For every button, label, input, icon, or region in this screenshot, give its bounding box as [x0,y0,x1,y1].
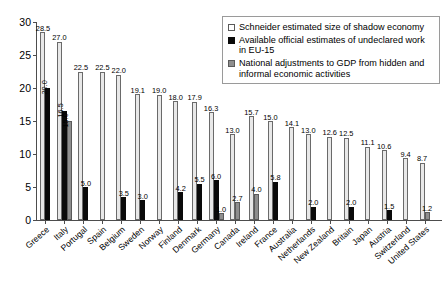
bar-official-eu15: 5.5 [197,184,202,220]
legend-label-schneider: Schneider estimated size of shadow econo… [239,22,424,32]
bar-value-label: 3.5 [119,190,129,197]
bar-value-label: 8.7 [417,155,427,162]
bar-value-label: 28.5 [36,25,50,32]
x-axis-labels: GreeceItalyPortugalSpainBelgiumSwedenNor… [36,222,434,282]
bar-group: 28.520.0 [36,22,55,220]
bar-group: 22.5 [93,22,112,220]
bar-value-label: 6.0 [211,173,221,180]
bar-schneider: 9.4 [403,158,408,220]
legend-label-official-eu15: Available official estimates of undeclar… [239,35,434,56]
bar-value-label: 4.0 [251,186,261,193]
bar-official-eu15: 4.2 [178,192,183,220]
bar-group: 18.04.2 [169,22,188,220]
x-axis-line [36,220,442,221]
bar-official-eu15: 3.5 [121,197,126,220]
bar-value-label: 22.5 [95,64,109,71]
bar-value-label: 13.0 [301,127,315,134]
x-label-slot: Portugal [74,222,93,282]
bar-group: 19.13.0 [131,22,150,220]
bar-value-label: 2.0 [308,199,318,206]
bar-group: 19.0 [150,22,169,220]
legend-item-schneider: Schneider estimated size of shadow econo… [228,22,434,32]
bar-official-eu15: 5.0 [83,187,88,220]
bar-value-label: 14.1 [285,120,299,127]
bar-value-label: 15.0 [263,114,277,121]
bar-official-eu15: 2.0 [311,207,316,220]
bar-value-label: 22.0 [112,67,126,74]
legend-item-national-gdp: National adjustments to GDP from hidden … [228,58,434,79]
shadow-economy-bar-chart: 051015202530 28.520.027.016.515.022.55.0… [0,0,448,289]
x-tick-label: Greece [25,225,52,250]
bar-value-label: 1.2 [422,205,432,212]
bar-official-eu15: 20.0 [45,88,50,220]
x-label-slot: Spain [93,222,112,282]
bar-schneider: 11.1 [365,147,370,220]
x-label-slot: United States [415,222,434,282]
bar-value-label: 17.9 [187,94,201,101]
x-label-slot: Germany [207,222,226,282]
legend-swatch-official-eu15-icon [228,37,235,44]
bar-schneider: 19.0 [157,95,162,220]
bar-value-label: 16.3 [204,105,218,112]
bar-official-eu15: 1.5 [387,210,392,220]
legend-item-official-eu15: Available official estimates of undeclar… [228,35,434,56]
bar-value-label: 5.0 [81,180,91,187]
bar-group: 17.95.5 [188,22,207,220]
x-label-slot: Canada [226,222,245,282]
bar-value-label: 5.5 [194,176,204,183]
bar-value-label: 19.0 [152,87,166,94]
bar-value-label: 27.0 [52,34,66,41]
x-label-slot: Britain [339,222,358,282]
bar-value-label: 18.0 [168,94,182,101]
x-label-slot: Belgium [112,222,131,282]
bar-official-eu15: 3.0 [140,200,145,220]
x-label-slot: Ireland [244,222,263,282]
bar-schneider: 22.5 [100,72,105,221]
bar-national-gdp: 1.0 [219,213,224,220]
legend-label-national-gdp: National adjustments to GDP from hidden … [239,58,434,79]
bar-national-gdp: 1.2 [425,212,430,220]
x-label-slot: New Zealand [320,222,339,282]
bar-group: 22.03.5 [112,22,131,220]
bar-value-label: 15.0 [62,113,69,127]
figure-caption [26,279,426,289]
bar-official-eu15: 2.0 [349,207,354,220]
y-tick-mark [33,220,37,221]
bar-value-label: 12.6 [323,129,337,136]
bar-value-label: 10.6 [377,143,391,150]
bar-value-label: 9.4 [400,151,410,158]
bar-value-label: 2.7 [232,195,242,202]
bar-value-label: 12.5 [339,130,353,137]
bar-value-label: 1.5 [384,203,394,210]
bar-national-gdp: 2.7 [235,202,240,220]
bar-group: 22.55.0 [74,22,93,220]
x-label-slot: Greece [36,222,55,282]
x-label-slot: Norway [150,222,169,282]
bar-national-gdp: 4.0 [254,194,259,220]
bar-national-gdp: 15.0 [67,121,72,220]
bar-value-label: 3.0 [138,193,148,200]
bar-value-label: 20.0 [41,80,48,94]
bar-value-label: 15.7 [244,109,258,116]
legend-swatch-schneider-icon [228,24,235,31]
bar-value-label: 2.0 [346,199,356,206]
bar-value-label: 4.2 [176,185,186,192]
bar-value-label: 11.1 [361,139,375,146]
x-label-slot: Sweden [131,222,150,282]
legend-swatch-national-gdp-icon [228,60,235,67]
chart-legend: Schneider estimated size of shadow econo… [222,16,440,84]
bar-group: 27.016.515.0 [55,22,74,220]
bar-value-label: 22.5 [74,64,88,71]
bar-official-eu15: 5.8 [273,182,278,220]
bar-value-label: 19.1 [131,87,145,94]
bar-value-label: 13.0 [225,127,239,134]
bar-value-label: 5.8 [270,174,280,181]
bar-schneider: 14.1 [289,127,294,220]
bar-schneider: 12.6 [327,137,332,220]
